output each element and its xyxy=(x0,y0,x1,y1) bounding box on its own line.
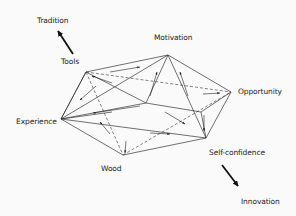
label-opportunity: Opportunity xyxy=(238,87,282,96)
innovation-arrow-icon xyxy=(222,165,238,186)
label-tools: Tools xyxy=(61,57,79,66)
dashed-edges xyxy=(86,72,231,155)
label-innovation: Innovation xyxy=(241,197,280,206)
label-motivation: Motivation xyxy=(154,33,193,42)
inner-solid-edges xyxy=(61,55,231,138)
label-experience: Experience xyxy=(16,117,57,126)
tradition-arrow-icon xyxy=(58,31,73,54)
label-self-confidence: Self-confidence xyxy=(209,148,265,157)
outer-edges xyxy=(61,55,231,155)
polyhedron-diagram xyxy=(0,0,296,216)
label-wood: Wood xyxy=(101,164,122,173)
label-tradition: Tradition xyxy=(37,16,68,25)
diagram-canvas: Tradition Tools Motivation Opportunity E… xyxy=(0,0,296,216)
